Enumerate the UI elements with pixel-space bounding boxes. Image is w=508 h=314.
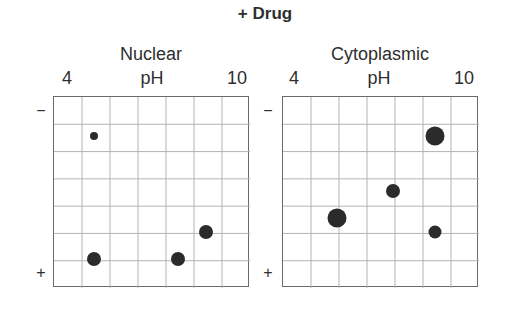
x-axis-min-label: 4: [62, 68, 72, 89]
protein-spot: [328, 209, 347, 228]
protein-spot: [171, 252, 185, 266]
x-axis-max-label: 10: [227, 68, 247, 89]
positive-charge-label: +: [263, 264, 272, 282]
gel-grid-cytoplasmic: [282, 96, 478, 287]
gridlines: [54, 97, 250, 288]
panel-title-cytoplasmic: Cytoplasmic: [282, 44, 478, 65]
negative-charge-label: −: [263, 102, 272, 120]
protein-spot: [429, 225, 442, 238]
protein-spot: [90, 132, 98, 140]
gridlines: [283, 97, 479, 288]
protein-spot: [426, 127, 445, 146]
x-axis-min-label: 4: [289, 68, 299, 89]
x-axis-title: pH: [140, 68, 163, 89]
x-axis-title: pH: [367, 68, 390, 89]
x-axis-max-label: 10: [454, 68, 474, 89]
protein-spot: [87, 252, 101, 266]
positive-charge-label: +: [36, 264, 45, 282]
figure-title: + Drug: [0, 4, 508, 24]
protein-spot: [199, 225, 213, 239]
protein-spot: [386, 184, 400, 198]
negative-charge-label: −: [36, 102, 45, 120]
panel-title-nuclear: Nuclear: [53, 44, 249, 65]
gel-grid-nuclear: [53, 96, 249, 287]
